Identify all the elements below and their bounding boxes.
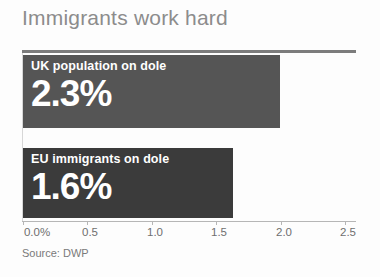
bar-label: EU immigrants on dole [31,152,233,167]
x-tick-mark [281,221,282,225]
chart-figure: Immigrants work hard UK population on do… [0,0,380,277]
x-tick-mark [152,221,153,225]
bar-uk-population-on-dole[interactable]: UK population on dole 2.3% [23,55,280,128]
source-note: Source: DWP [22,247,89,259]
x-tick-label: 2.5 [340,226,356,238]
x-axis-line [22,221,356,222]
bar-label: UK population on dole [31,59,280,74]
x-tick-mark [345,221,346,225]
chart-title: Immigrants work hard [22,6,228,30]
bar-eu-immigrants-on-dole[interactable]: EU immigrants on dole 1.6% [23,148,233,218]
x-tick-label: 1.0 [147,226,163,238]
x-tick-label: 1.5 [211,226,227,238]
x-tick-mark [87,221,88,225]
x-tick-mark [23,221,24,225]
x-tick-label: 0.5 [82,226,98,238]
plot-area: UK population on dole 2.3% EU immigrants… [22,53,356,221]
x-tick-mark [216,221,217,225]
bar-value: 1.6% [31,166,233,207]
bar-value: 2.3% [31,73,280,114]
x-tick-label: 2.0 [276,226,292,238]
x-tick-label: 0.0% [24,226,50,238]
